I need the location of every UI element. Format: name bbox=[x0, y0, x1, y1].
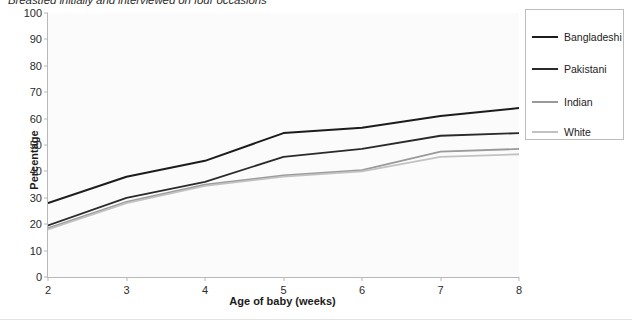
x-axis-label: Age of baby (weeks) bbox=[47, 295, 518, 307]
y-tick-mark-30 bbox=[44, 197, 48, 198]
x-tick-mark-8 bbox=[519, 277, 520, 281]
legend-label: Indian bbox=[564, 96, 593, 108]
plot-area: 0102030405060708090100 2345678 bbox=[47, 13, 519, 278]
series-paths bbox=[48, 13, 519, 277]
x-tick-mark-5 bbox=[283, 277, 284, 281]
legend-label: Bangladeshi bbox=[564, 31, 622, 43]
chart-legend: BangladeshiPakistaniIndianWhite bbox=[525, 9, 624, 140]
y-tick-mark-70 bbox=[44, 92, 48, 93]
legend-label: Pakistani bbox=[564, 63, 607, 75]
x-tick-mark-2 bbox=[48, 277, 49, 281]
series-line-bangladeshi bbox=[48, 108, 519, 203]
legend-swatch-icon bbox=[532, 131, 558, 133]
x-tick-mark-3 bbox=[126, 277, 127, 281]
legend-swatch-icon bbox=[532, 36, 558, 38]
y-tick-mark-10 bbox=[44, 250, 48, 251]
chart-title: Breastfed initially and interviewed on f… bbox=[8, 0, 267, 6]
x-tick-mark-6 bbox=[362, 277, 363, 281]
y-tick-mark-80 bbox=[44, 65, 48, 66]
series-line-white bbox=[48, 154, 519, 229]
legend-item-indian[interactable]: Indian bbox=[532, 95, 619, 109]
y-tick-mark-20 bbox=[44, 224, 48, 225]
x-tick-mark-7 bbox=[440, 277, 441, 281]
legend-item-pakistani[interactable]: Pakistani bbox=[532, 62, 619, 76]
y-tick-mark-90 bbox=[44, 39, 48, 40]
line-chart: Breastfed initially and interviewed on f… bbox=[0, 0, 632, 320]
legend-label: White bbox=[564, 126, 591, 138]
series-line-indian bbox=[48, 149, 519, 228]
legend-swatch-icon bbox=[532, 68, 558, 70]
y-tick-mark-100 bbox=[44, 13, 48, 14]
legend-swatch-icon bbox=[532, 101, 558, 103]
plot-surface bbox=[48, 13, 519, 277]
y-tick-mark-40 bbox=[44, 171, 48, 172]
y-tick-mark-60 bbox=[44, 118, 48, 119]
legend-item-white[interactable]: White bbox=[532, 125, 619, 139]
x-tick-mark-4 bbox=[205, 277, 206, 281]
y-tick-mark-50 bbox=[44, 145, 48, 146]
legend-item-bangladeshi[interactable]: Bangladeshi bbox=[532, 30, 619, 44]
